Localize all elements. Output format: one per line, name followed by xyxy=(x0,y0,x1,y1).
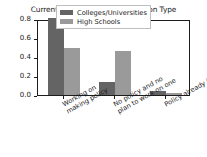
bar xyxy=(48,18,64,95)
chart-figure: Current Policy Status by Institution Typ… xyxy=(0,0,207,157)
legend-item[interactable]: High Schools xyxy=(60,17,147,26)
x-tick-mark xyxy=(165,96,166,99)
y-tick-label: 0.4 xyxy=(20,53,31,61)
x-tick-label: Policy already in place xyxy=(163,101,168,109)
y-tick-label: 0.2 xyxy=(20,72,31,80)
x-tick-label: No policy and noplan to work on one xyxy=(112,101,121,116)
bar xyxy=(115,51,131,95)
legend-swatch xyxy=(60,10,73,15)
legend-swatch xyxy=(60,19,73,24)
y-tick-label: 0.0 xyxy=(20,91,31,99)
legend-label: High Schools xyxy=(77,18,120,26)
y-tick-label: 0.8 xyxy=(20,15,31,23)
x-tick-label-line: Policy already in place xyxy=(163,101,168,109)
x-tick-label-line: making policy xyxy=(65,108,70,116)
chart-legend: Colleges/UniversitiesHigh Schools xyxy=(56,5,151,29)
x-tick-mark xyxy=(63,96,64,99)
legend-item[interactable]: Colleges/Universities xyxy=(60,8,147,17)
x-tick-label: Working onmaking policy xyxy=(61,101,70,116)
bar xyxy=(64,48,80,95)
x-tick-mark xyxy=(114,96,115,99)
legend-label: Colleges/Universities xyxy=(77,9,147,17)
x-tick-label-line: plan to work on one xyxy=(116,108,121,116)
y-tick-label: 0.6 xyxy=(20,34,31,42)
